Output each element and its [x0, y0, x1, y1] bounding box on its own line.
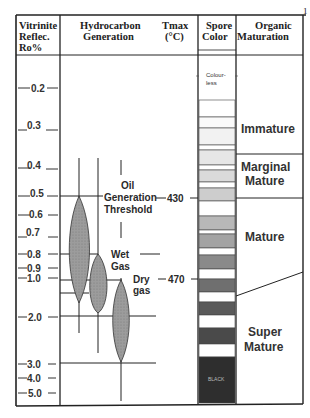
zone-super-line2: Mature: [244, 340, 284, 354]
ro-4.0: 4.0: [27, 373, 41, 384]
header-vitrinite-line2: Reflec.: [19, 31, 50, 42]
zone-marginal-line2: Mature: [245, 174, 285, 188]
header-hydrocarbon-line2: Generation: [83, 31, 134, 42]
dry-gas-label-line1: Dry: [133, 274, 150, 285]
zone-super-line1: Super: [248, 325, 282, 339]
page-marker: 1: [303, 6, 308, 16]
zone-marginal-line1: Marginal: [241, 160, 290, 174]
wet-gas-window-ellipse: [90, 254, 107, 313]
oil-label-line3: Threshold: [104, 204, 152, 215]
ro-0.3: 0.3: [27, 120, 41, 131]
header-tmax-line2: (°C): [165, 31, 184, 43]
ro-3.0: 3.0: [27, 359, 41, 370]
wet-gas-label-line2: Gas: [111, 261, 130, 272]
wet-gas-label-line1: Wet: [111, 249, 130, 260]
black-label: BLACK: [208, 376, 225, 382]
vitrinite-scale: [18, 88, 58, 393]
oil-label-line1: Oil: [121, 180, 135, 191]
header-organic-line1: Organic: [255, 20, 292, 31]
vitrinite-labels: 0.2 0.3 0.4 0.5 0.6 0.7 0.8 0.9 1.0 2.0 …: [26, 83, 45, 399]
ro-0.4: 0.4: [27, 160, 41, 171]
header-vitrinite-line1: Vitrinite: [19, 20, 57, 31]
hydrocarbon-labels: Oil Generation Threshold Wet Gas Dry gas: [104, 180, 157, 296]
colourless-label-line1: Colour-: [206, 72, 226, 78]
header-organic-line2: Maturation: [237, 31, 289, 42]
header-spore-line2: Color: [202, 31, 228, 42]
thermal-maturity-diagram: Vitrinite Reflec. Ro% Hydrocarbon Genera…: [0, 0, 310, 418]
spore-color-column: [196, 56, 238, 403]
ro-0.5: 0.5: [30, 188, 44, 199]
ro-2.0: 2.0: [28, 312, 42, 323]
maturation-labels: Immature Marginal Mature Mature Super Ma…: [241, 122, 295, 354]
zone-immature: Immature: [241, 122, 295, 136]
oil-window-ellipse: [69, 196, 89, 303]
header-tmax-line1: Tmax: [162, 20, 189, 31]
dry-gas-label-line2: gas: [133, 285, 151, 296]
header-hydrocarbon-line1: Hydrocarbon: [80, 20, 141, 31]
header-spore-line1: Spore: [206, 20, 232, 31]
header-vitrinite-line3: Ro%: [19, 42, 42, 53]
dry-gas-window-ellipse: [113, 280, 130, 362]
tmax-470: 470: [168, 274, 185, 285]
tmax-labels: 430 470: [167, 193, 185, 285]
generation-windows: [69, 196, 129, 362]
oil-label-line2: Generation: [104, 192, 157, 203]
colourless-label-line2: less: [206, 80, 217, 86]
ro-0.2: 0.2: [31, 83, 45, 94]
ro-1.0: 1.0: [27, 273, 41, 284]
column-headers: Vitrinite Reflec. Ro% Hydrocarbon Genera…: [19, 6, 308, 53]
ro-0.7: 0.7: [26, 227, 40, 238]
ro-5.0: 5.0: [28, 388, 42, 399]
zone-mature: Mature: [245, 230, 285, 244]
tmax-430: 430: [167, 193, 184, 204]
ro-0.6: 0.6: [29, 209, 43, 220]
ro-0.8: 0.8: [27, 249, 41, 260]
